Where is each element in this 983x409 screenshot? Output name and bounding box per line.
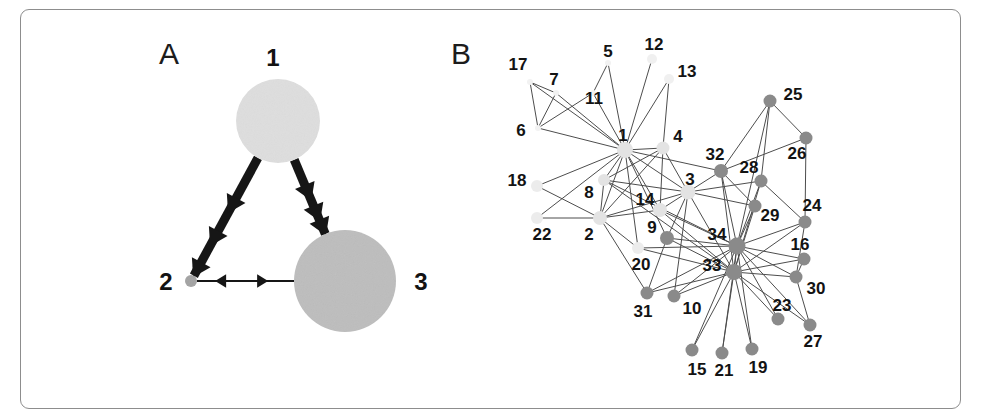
node-label-34: 34	[708, 225, 727, 244]
node-26	[800, 132, 813, 145]
node-label-15: 15	[688, 360, 707, 379]
node-label-19: 19	[749, 358, 768, 377]
node-label-14: 14	[636, 190, 655, 209]
edge-25-26	[770, 101, 806, 138]
node-label-8: 8	[584, 183, 593, 202]
node-label-11: 11	[585, 89, 603, 108]
edge-3-4	[663, 148, 688, 192]
node-12	[647, 54, 657, 64]
edge-16-33	[734, 259, 804, 272]
node-label-16: 16	[791, 235, 810, 254]
node-6	[535, 125, 541, 131]
edge-25-28	[761, 101, 770, 181]
node-label-12: 12	[645, 35, 664, 54]
edge-2-14	[600, 210, 660, 218]
node-label-6: 6	[516, 121, 525, 140]
edge-1-13	[625, 79, 669, 150]
edge-1-12	[625, 59, 652, 150]
node-label-30: 30	[807, 279, 826, 298]
node-label-25: 25	[784, 85, 803, 104]
node-label-21: 21	[715, 361, 734, 380]
node-label-18: 18	[508, 171, 527, 190]
node-label-29: 29	[761, 206, 780, 225]
node-17	[527, 79, 533, 85]
node-8	[598, 174, 610, 186]
node-4	[657, 142, 670, 155]
edge-19-33	[734, 272, 752, 349]
edge-4-8	[604, 148, 663, 180]
node-label-31: 31	[634, 302, 653, 321]
node-15	[686, 344, 699, 357]
edge-2-20	[600, 218, 638, 248]
node-label-13: 13	[678, 62, 697, 81]
node-18	[531, 180, 543, 192]
node-label-10: 10	[683, 299, 702, 318]
edge-3-29	[688, 192, 755, 206]
node-34	[729, 238, 746, 255]
edge-28-33	[734, 181, 761, 272]
node-14	[653, 203, 667, 217]
node-31	[641, 287, 654, 300]
node-21	[716, 347, 729, 360]
node-13	[664, 74, 674, 84]
node-label-20: 20	[632, 255, 651, 274]
node-10	[668, 290, 681, 303]
node-label-27: 27	[804, 332, 823, 351]
node-label-3: 3	[685, 170, 694, 189]
node-7	[553, 90, 559, 96]
node-9	[660, 231, 674, 245]
node-label-17: 17	[509, 55, 528, 74]
edge-20-34	[638, 246, 737, 248]
node-label-26: 26	[788, 144, 807, 163]
node-30	[790, 271, 803, 284]
node-label-5: 5	[603, 42, 612, 61]
node-label-28: 28	[740, 158, 759, 177]
node-32	[714, 164, 728, 178]
edge-1-3	[625, 150, 688, 192]
node-label-4: 4	[673, 127, 683, 146]
node-20	[632, 242, 644, 254]
edge-6-17	[530, 82, 538, 128]
node-16	[798, 253, 811, 266]
node-label-22: 22	[533, 225, 552, 244]
node-label-7: 7	[549, 70, 558, 89]
node-label-33: 33	[703, 256, 722, 275]
node-22	[531, 212, 543, 224]
node-label-23: 23	[773, 296, 792, 315]
node-19	[746, 343, 759, 356]
node-2	[593, 211, 607, 225]
node-33	[726, 264, 742, 280]
node-27	[804, 319, 817, 332]
node-label-1: 1	[618, 126, 627, 145]
node-label-24: 24	[803, 196, 822, 215]
node-label-32: 32	[706, 145, 725, 164]
node-24	[799, 216, 812, 229]
node-label-9: 9	[647, 218, 656, 237]
node-label-2: 2	[584, 225, 593, 244]
node-25	[764, 95, 777, 108]
edge-4-13	[663, 79, 669, 148]
